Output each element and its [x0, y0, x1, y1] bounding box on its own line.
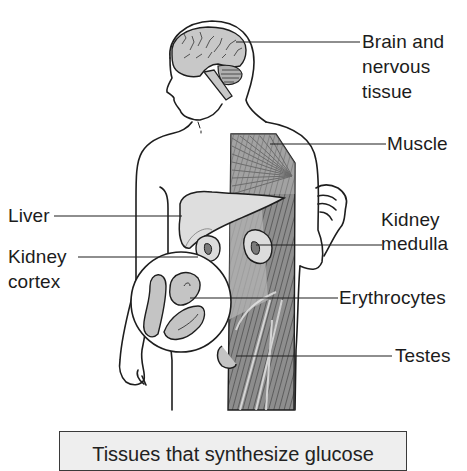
label-kidney-cortex-line1: Kidney [8, 246, 67, 267]
label-testes: Testes [395, 345, 451, 366]
muscle-tissue [228, 134, 298, 410]
caption-text: Tissues that synthesize glucose [60, 443, 406, 465]
label-liver: Liver [8, 205, 50, 226]
label-erythrocytes: Erythrocytes [339, 287, 446, 308]
caption-box: Tissues that synthesize glucose [59, 431, 407, 471]
label-kidney-cortex-line2: cortex [8, 271, 60, 292]
label-brain-line2: nervous [362, 56, 430, 77]
label-kidney-medulla-line1: Kidney [381, 209, 440, 230]
label-brain-line1: Brain and [362, 31, 444, 52]
label-muscle: Muscle [387, 133, 448, 154]
label-kidney-medulla-line2: medulla [381, 233, 448, 254]
erythrocytes-inset [131, 252, 231, 352]
label-brain-line3: tissue [362, 81, 412, 102]
kidney-right [244, 230, 272, 263]
brain-organ [172, 27, 246, 100]
